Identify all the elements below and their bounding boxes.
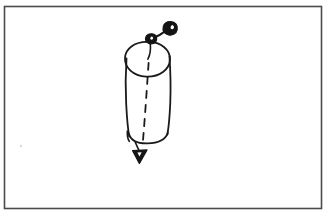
stray-speck — [20, 145, 22, 147]
sketch-canvas: Hand-drawn cylinder with dashed axis, do… — [0, 0, 330, 217]
ink-blob-large — [163, 22, 177, 36]
hand-drawn-sketch — [0, 0, 330, 217]
